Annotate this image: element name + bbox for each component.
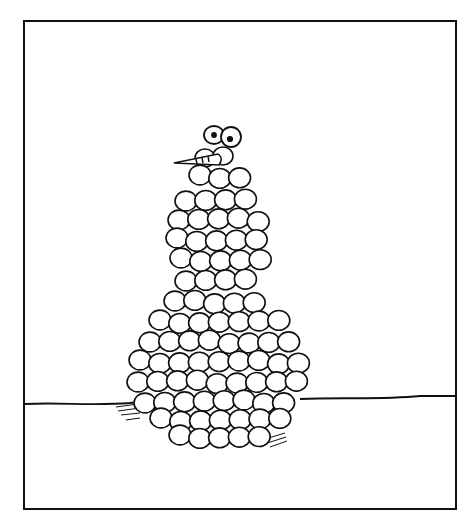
snowman-drawing [0,0,474,531]
